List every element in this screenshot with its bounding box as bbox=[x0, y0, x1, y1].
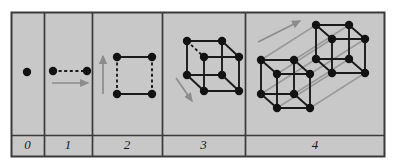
dimension-0-point bbox=[11, 12, 44, 135]
dimension-4-tesseract-vertex-6 bbox=[273, 104, 281, 112]
dimension-2-square bbox=[92, 12, 162, 135]
dimension-4-tesseract-vertex-13 bbox=[361, 35, 369, 43]
dimension-4-tesseract-vertex-14 bbox=[328, 69, 336, 77]
dimension-4-tesseract-vertex-15 bbox=[361, 69, 369, 77]
panel-label-3: 3 bbox=[199, 137, 207, 152]
dimensions-figure: 01234 bbox=[0, 0, 395, 165]
dimension-4-tesseract-vertex-4 bbox=[273, 70, 281, 78]
dimension-2-square-vertex-1 bbox=[148, 53, 156, 61]
dimension-2-square-vertex-3 bbox=[148, 90, 156, 98]
dimension-4-tesseract-vertex-8 bbox=[312, 21, 320, 29]
dimension-3-cube-vertex-6 bbox=[200, 87, 208, 95]
dimension-4-tesseract-vertex-11 bbox=[345, 55, 353, 63]
panel-layer bbox=[11, 12, 385, 135]
dimension-3-cube-vertex-0 bbox=[183, 37, 191, 45]
dimension-3-cube-vertex-5 bbox=[235, 53, 243, 61]
panel-label-4: 4 bbox=[312, 137, 319, 152]
dimension-2-square-vertex-2 bbox=[113, 90, 121, 98]
dimension-4-tesseract-vertex-1 bbox=[290, 56, 298, 64]
dimensions-diagram-canvas: 01234 bbox=[0, 0, 395, 165]
dimension-3-cube bbox=[162, 12, 245, 135]
dimension-3-cube-vertex-4 bbox=[200, 53, 208, 61]
dimension-4-tesseract-vertex-0 bbox=[257, 56, 265, 64]
panel-label-1: 1 bbox=[65, 137, 72, 152]
dimension-3-cube-vertex-1 bbox=[218, 37, 226, 45]
dimension-3-cube-vertex-2 bbox=[183, 71, 191, 79]
dimension-2-square-vertex-0 bbox=[113, 53, 121, 61]
dimension-3-cube-vertex-7 bbox=[235, 87, 243, 95]
dimension-4-tesseract-vertex-10 bbox=[312, 55, 320, 63]
dimension-4-tesseract-vertex-7 bbox=[306, 104, 314, 112]
panel-label-0: 0 bbox=[24, 137, 31, 152]
dimension-4-tesseract bbox=[245, 12, 385, 135]
dimension-4-tesseract-vertex-9 bbox=[345, 21, 353, 29]
dimension-4-tesseract-vertex-3 bbox=[290, 90, 298, 98]
dimension-1-line-vertex-1 bbox=[83, 67, 91, 75]
dimension-4-tesseract-vertex-5 bbox=[306, 70, 314, 78]
dimension-1-line-vertex-0 bbox=[49, 67, 57, 75]
dimension-1-line bbox=[44, 12, 92, 135]
dimension-4-tesseract-vertex-2 bbox=[257, 90, 265, 98]
panel-label-2: 2 bbox=[124, 137, 131, 152]
dimension-3-cube-vertex-3 bbox=[218, 71, 226, 79]
dimension-0-point-vertex-0 bbox=[23, 68, 31, 76]
dimension-4-tesseract-vertex-12 bbox=[328, 35, 336, 43]
